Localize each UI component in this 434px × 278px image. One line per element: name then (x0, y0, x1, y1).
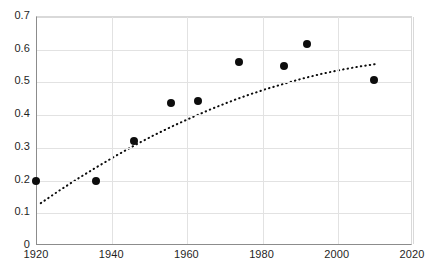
gridline-vertical (413, 17, 414, 244)
data-point (280, 62, 288, 70)
x-axis-tick-label: 2000 (312, 249, 362, 260)
gridline-vertical (338, 17, 339, 244)
y-axis-tick-label: 0.3 (0, 141, 30, 152)
plot-svg (37, 17, 413, 246)
y-axis-tick-label: 0.6 (0, 43, 30, 54)
y-axis-tick-label: 0.7 (0, 10, 30, 21)
gridline-horizontal (37, 213, 411, 214)
data-point (92, 177, 100, 185)
x-axis-tick-label: 1960 (161, 249, 211, 260)
data-point (194, 97, 202, 105)
gridline-horizontal (37, 148, 411, 149)
x-axis-tick-label: 1920 (11, 249, 61, 260)
y-axis-tick-label: 0.2 (0, 174, 30, 185)
gridline-vertical (263, 17, 264, 244)
data-point (32, 177, 40, 185)
x-axis-tick-label: 1980 (237, 249, 287, 260)
gridline-horizontal (37, 50, 411, 51)
gridline-horizontal (37, 115, 411, 116)
x-axis-tick-label: 2020 (387, 249, 434, 260)
y-axis-tick-label: 0.1 (0, 206, 30, 217)
trend-line (41, 64, 376, 203)
gridline-horizontal (37, 17, 411, 18)
plot-area (36, 16, 412, 245)
scatter-chart: 00.10.20.30.40.50.60.7 19201940196019802… (0, 0, 434, 278)
data-point (235, 58, 243, 66)
y-axis-tick-label: 0.5 (0, 75, 30, 86)
gridline-vertical (112, 17, 113, 244)
x-axis-tick-label: 1940 (86, 249, 136, 260)
data-point (303, 40, 311, 48)
gridline-horizontal (37, 82, 411, 83)
y-axis-tick-label: 0.4 (0, 108, 30, 119)
data-point (130, 137, 138, 145)
gridline-vertical (187, 17, 188, 244)
